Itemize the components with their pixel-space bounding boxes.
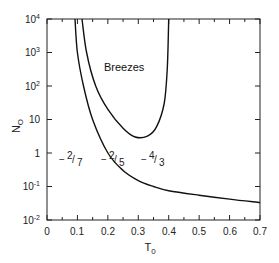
region-label-breezes: Breezes [104,61,145,73]
x-axis-ticks [47,19,260,220]
svg-text:7: 7 [77,157,83,168]
breeze-boundary-curve [82,19,169,138]
y-tick-label: 10 [29,114,41,125]
x-axis-title: T0 [144,241,156,256]
svg-text:−: − [141,154,147,165]
annotation-minus-2-5: − 2 / 5 [101,150,125,168]
x-tick-label: 0.2 [101,226,115,237]
svg-text:3: 3 [159,157,165,168]
svg-text:/: / [72,154,75,165]
annotation-minus-4-3: − 4 / 3 [141,150,165,168]
y-tick-label: 102 [25,80,40,92]
x-tick-label: 0.5 [192,226,206,237]
y-axis-ticks [47,19,260,220]
y-tick-label: 10-1 [23,180,40,192]
x-tick-label: 0.6 [223,226,237,237]
x-tick-label: 0.1 [70,226,84,237]
svg-text:/: / [154,154,157,165]
x-tick-label: 0.7 [253,226,267,237]
svg-text:/: / [114,154,117,165]
annotation-minus-2-7: − 2 / 7 [59,150,83,168]
chart: 0 0.1 0.2 0.3 0.4 0.5 0.6 0.7 104 103 10… [0,0,279,263]
svg-text:−: − [101,154,107,165]
x-tick-labels: 0 0.1 0.2 0.3 0.4 0.5 0.6 0.7 [44,226,267,237]
x-tick-label: 0 [44,226,50,237]
x-tick-label: 0.4 [162,226,176,237]
svg-text:5: 5 [119,157,125,168]
plot-frame [47,19,260,220]
y-tick-label: 1 [34,148,40,159]
y-axis-title: NO [10,119,25,133]
svg-text:−: − [59,154,65,165]
x-tick-label: 0.3 [131,226,145,237]
y-tick-label: 10-2 [23,214,40,226]
y-tick-label: 104 [25,13,40,25]
y-tick-label: 103 [25,46,40,58]
y-tick-labels: 104 103 102 10 1 10-1 10-2 [23,13,41,226]
